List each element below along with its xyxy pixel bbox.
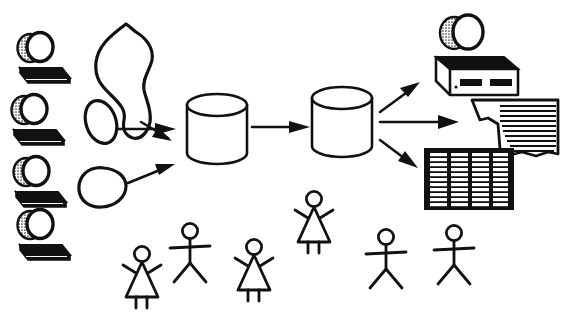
database-cylinder-1 xyxy=(187,94,247,164)
database-cylinder-2 xyxy=(312,87,372,157)
diagram-canvas xyxy=(0,0,564,315)
spreadsheet-output xyxy=(424,148,514,210)
diagram-illustration xyxy=(0,0,564,315)
blob-teardrop xyxy=(79,168,126,207)
